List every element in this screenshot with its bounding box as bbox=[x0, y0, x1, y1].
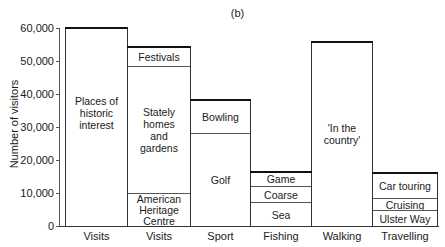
segment-label: American Heritage Centre bbox=[128, 194, 190, 226]
bar-sport: Bowling Golf bbox=[190, 100, 251, 226]
x-label: Fishing bbox=[250, 230, 312, 242]
segment-label: Festivals bbox=[128, 47, 190, 66]
y-tick bbox=[56, 193, 60, 194]
segment-label: Car touring bbox=[373, 173, 437, 198]
bar-top-edge bbox=[372, 172, 438, 174]
y-tick bbox=[56, 127, 60, 128]
bar-top-edge bbox=[311, 41, 373, 43]
panel-label: (b) bbox=[0, 7, 445, 19]
y-tick-label: 30,000 bbox=[4, 121, 54, 133]
segment-label: Bowling bbox=[191, 100, 250, 133]
y-tick bbox=[56, 28, 60, 29]
segment-label: Golf bbox=[191, 134, 250, 226]
segment-label: 'In the country' bbox=[312, 114, 372, 154]
y-tick-label: 10,000 bbox=[4, 187, 54, 199]
bar-walking: 'In the country' bbox=[311, 42, 373, 226]
y-tick-label: 0 bbox=[4, 220, 54, 232]
segment-label: Cruising bbox=[373, 199, 437, 210]
bar-travelling: Car touring Cruising Ulster Way bbox=[372, 173, 438, 226]
segment-label: Places of historic interest bbox=[66, 68, 127, 158]
y-tick-label: 60,000 bbox=[4, 22, 54, 34]
bar-visits-attractions: Festivals Stately homes and gardens Amer… bbox=[127, 47, 191, 226]
y-tick bbox=[56, 226, 60, 227]
y-tick-label: 20,000 bbox=[4, 154, 54, 166]
x-label: Visits bbox=[65, 230, 128, 242]
segment-label: Game bbox=[251, 172, 311, 186]
bar-top-edge bbox=[250, 171, 312, 173]
segment-label: Sea bbox=[251, 203, 311, 226]
segment-label: Ulster Way bbox=[373, 211, 437, 226]
bar-top-edge bbox=[65, 27, 128, 29]
x-label: Sport bbox=[190, 230, 251, 242]
y-tick-label: 40,000 bbox=[4, 88, 54, 100]
bar-top-edge bbox=[190, 99, 251, 101]
bar-top-edge bbox=[127, 46, 191, 48]
x-axis-baseline bbox=[59, 226, 439, 227]
x-label: Walking bbox=[311, 230, 373, 242]
y-tick bbox=[56, 94, 60, 95]
stacked-bar-chart: (b) Number of visitors 0 10,000 20,000 3… bbox=[0, 0, 445, 247]
segment-label: Coarse bbox=[251, 187, 311, 202]
segment-label: Stately homes and gardens bbox=[128, 67, 190, 193]
bar-visits-historic: Places of historic interest bbox=[65, 28, 128, 226]
y-tick bbox=[56, 61, 60, 62]
x-label: Visits bbox=[127, 230, 191, 242]
y-tick-label: 50,000 bbox=[4, 55, 54, 67]
x-label: Travelling bbox=[372, 230, 438, 242]
y-tick bbox=[56, 160, 60, 161]
bar-fishing: Game Coarse Sea bbox=[250, 172, 312, 226]
